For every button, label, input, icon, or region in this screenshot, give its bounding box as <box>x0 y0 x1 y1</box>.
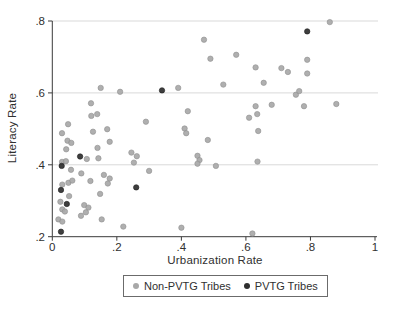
data-point-pvtg <box>305 29 310 34</box>
data-point-non-pvtg <box>253 104 258 109</box>
data-point-pvtg <box>58 229 63 234</box>
data-point-non-pvtg <box>305 71 310 76</box>
data-point-pvtg <box>77 154 82 159</box>
data-point-non-pvtg <box>96 156 101 161</box>
data-point-non-pvtg <box>121 224 126 229</box>
data-point-non-pvtg <box>179 225 184 230</box>
data-point-pvtg <box>64 201 69 206</box>
data-point-non-pvtg <box>84 156 89 161</box>
data-point-non-pvtg <box>88 178 93 183</box>
data-point-non-pvtg <box>297 88 302 93</box>
data-point-non-pvtg <box>185 109 190 114</box>
data-point-non-pvtg <box>95 145 100 150</box>
data-point-non-pvtg <box>184 131 189 136</box>
data-point-non-pvtg <box>99 217 104 222</box>
x-tick-label: 0 <box>49 241 55 253</box>
data-point-non-pvtg <box>105 127 110 132</box>
data-point-non-pvtg <box>327 19 332 24</box>
data-point-non-pvtg <box>107 139 112 144</box>
x-tick-label: .6 <box>241 241 251 253</box>
x-axis-title: Urbanization Rate <box>52 254 378 266</box>
non-pvtg-marker-icon <box>133 283 139 289</box>
data-point-non-pvtg <box>62 209 67 214</box>
tick-labels: .2.4.6.80.2.4.6.81 <box>35 15 378 253</box>
x-tick-label: 1 <box>372 241 378 253</box>
data-point-pvtg <box>134 185 139 190</box>
data-point-pvtg <box>159 88 164 93</box>
data-point-non-pvtg <box>279 65 284 70</box>
legend: Non-PVTG Tribes PVTG Tribes <box>123 275 328 297</box>
data-point-non-pvtg <box>195 161 200 166</box>
data-point-non-pvtg <box>301 104 306 109</box>
data-point-non-pvtg <box>117 89 122 94</box>
data-point-non-pvtg <box>59 131 64 136</box>
data-point-non-pvtg <box>107 176 112 181</box>
data-point-non-pvtg <box>250 231 255 236</box>
y-tick-label: .2 <box>35 231 45 243</box>
gridlines <box>52 21 378 165</box>
data-point-non-pvtg <box>246 115 251 120</box>
data-point-non-pvtg <box>101 172 106 177</box>
tick-marks <box>48 21 375 241</box>
data-point-non-pvtg <box>98 85 103 90</box>
data-point-non-pvtg <box>255 111 260 116</box>
y-tick-label: .8 <box>35 15 45 27</box>
data-point-non-pvtg <box>105 181 110 186</box>
data-point-non-pvtg <box>134 154 139 159</box>
data-point-non-pvtg <box>63 147 68 152</box>
data-point-non-pvtg <box>255 159 260 164</box>
data-point-non-pvtg <box>129 150 134 155</box>
data-point-pvtg <box>58 187 63 192</box>
plot-canvas: .2.4.6.80.2.4.6.81 <box>0 0 397 272</box>
data-point-non-pvtg <box>69 140 74 145</box>
data-point-non-pvtg <box>305 57 310 62</box>
data-point-non-pvtg <box>285 69 290 74</box>
scatter-plot-figure: .2.4.6.80.2.4.6.81 Literacy Rate Urbaniz… <box>0 0 397 313</box>
data-point-non-pvtg <box>208 56 213 61</box>
data-point-non-pvtg <box>70 178 75 183</box>
data-point-non-pvtg <box>176 85 181 90</box>
data-point-non-pvtg <box>58 199 63 204</box>
data-point-non-pvtg <box>88 101 93 106</box>
legend-label-pvtg: PVTG Tribes <box>255 280 318 292</box>
data-point-non-pvtg <box>234 52 239 57</box>
data-point-non-pvtg <box>90 129 95 134</box>
data-point-non-pvtg <box>95 111 100 116</box>
y-tick-label: .4 <box>35 159 45 171</box>
data-point-non-pvtg <box>89 113 94 118</box>
data-point-non-pvtg <box>66 193 71 198</box>
pvtg-marker-icon <box>244 283 250 289</box>
x-tick-label: .8 <box>306 241 316 253</box>
legend-item-pvtg: PVTG Tribes <box>244 280 318 292</box>
data-point-non-pvtg <box>60 182 65 187</box>
data-point-non-pvtg <box>201 37 206 42</box>
x-tick-label: .2 <box>112 241 122 253</box>
data-point-non-pvtg <box>221 82 226 87</box>
data-point-non-pvtg <box>68 167 73 172</box>
data-point-non-pvtg <box>146 168 151 173</box>
data-point-non-pvtg <box>334 101 339 106</box>
data-point-non-pvtg <box>83 210 88 215</box>
data-point-non-pvtg <box>261 80 266 85</box>
data-point-non-pvtg <box>205 137 210 142</box>
data-points <box>56 19 339 236</box>
axes <box>52 21 377 237</box>
data-point-non-pvtg <box>65 122 70 127</box>
data-point-non-pvtg <box>269 102 274 107</box>
data-point-non-pvtg <box>256 128 261 133</box>
data-point-non-pvtg <box>79 171 84 176</box>
data-point-non-pvtg <box>213 163 218 168</box>
legend-label-non-pvtg: Non-PVTG Tribes <box>144 280 231 292</box>
data-point-non-pvtg <box>253 65 258 70</box>
data-point-non-pvtg <box>131 160 136 165</box>
legend-item-non-pvtg: Non-PVTG Tribes <box>133 280 231 292</box>
data-point-non-pvtg <box>60 219 65 224</box>
y-tick-label: .6 <box>35 87 45 99</box>
data-point-non-pvtg <box>63 159 68 164</box>
data-point-non-pvtg <box>143 119 148 124</box>
data-point-pvtg <box>59 163 64 168</box>
data-point-non-pvtg <box>97 191 102 196</box>
data-point-non-pvtg <box>78 213 83 218</box>
x-tick-label: .4 <box>177 241 187 253</box>
y-axis-title: Literacy Rate <box>6 93 18 163</box>
